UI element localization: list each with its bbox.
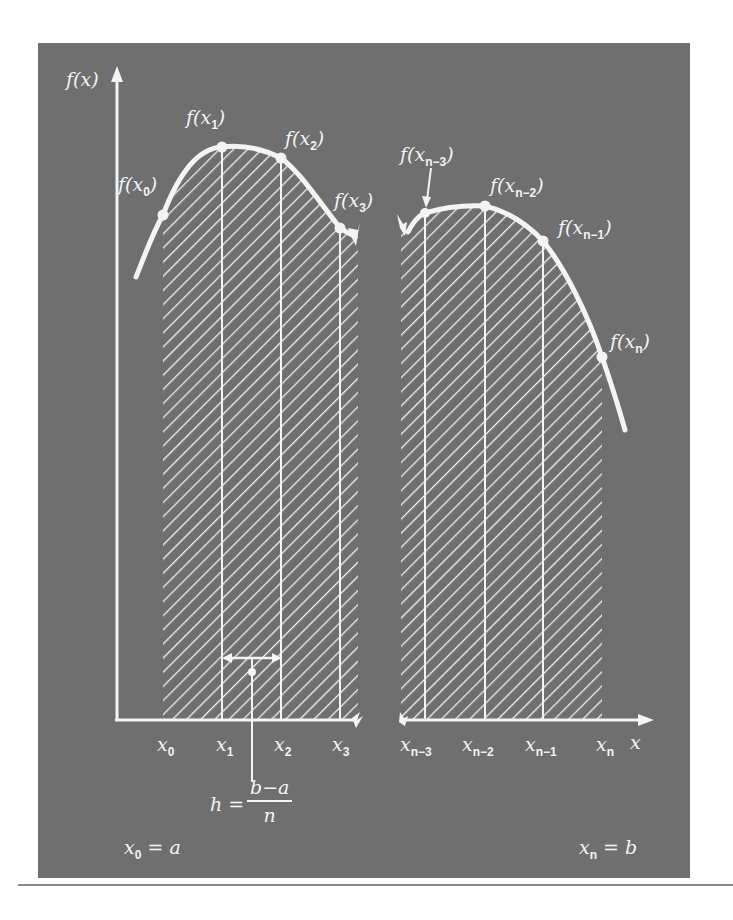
point-f-xn3 [420,208,430,218]
step-formula-fraction: b−a n [247,776,292,826]
point-f-xn [597,352,608,363]
y-axis-label: f(x) [66,70,99,89]
lower-bound-label: x0 = a [124,838,181,861]
label-f-x0: f(x0) [118,175,157,198]
point-f-x3 [335,223,346,234]
label-f-xn2: f(xn−2) [490,176,544,199]
h-leader-dot [248,668,256,676]
step-formula-numerator: b−a [247,776,292,802]
tick-label-x2: x2 [274,735,291,758]
tick-label-x1: x1 [216,735,233,758]
label-f-xn1: f(xn−1) [558,218,612,241]
tick-label-x0: x0 [157,735,174,758]
label-f-x3: f(x3) [334,191,373,214]
point-f-x2 [276,153,287,164]
label-f-xn: f(xn) [610,332,650,355]
upper-bound-label: xn = b [579,838,637,861]
tick-label-xn1: xn−1 [525,735,557,758]
point-f-x1 [217,142,228,153]
step-formula-denominator: n [247,802,292,826]
tick-label-xn2: xn−2 [462,735,494,758]
point-f-xn1 [538,236,549,247]
fxn3-pointer-line [427,168,431,200]
x-axis-arrowhead [638,714,654,726]
label-f-x2: f(x2) [285,129,324,152]
tick-label-x3: x3 [332,735,349,758]
step-formula-lhs: h = [210,795,244,814]
page-horizontal-rule [18,884,733,886]
label-f-xn3: f(xn−3) [400,145,454,168]
x-axis-label: x [630,733,641,752]
y-axis-arrowhead [111,66,123,82]
fxn3-pointer-arrowhead [422,196,431,208]
point-f-x0 [158,210,169,221]
diagram-graphics [0,0,733,920]
hatched-area-left [163,146,358,720]
point-f-xn2 [480,201,491,212]
label-f-x1: f(x1) [186,108,225,131]
tick-label-xn: xn [596,735,614,758]
tick-label-xn3: xn−3 [400,735,432,758]
